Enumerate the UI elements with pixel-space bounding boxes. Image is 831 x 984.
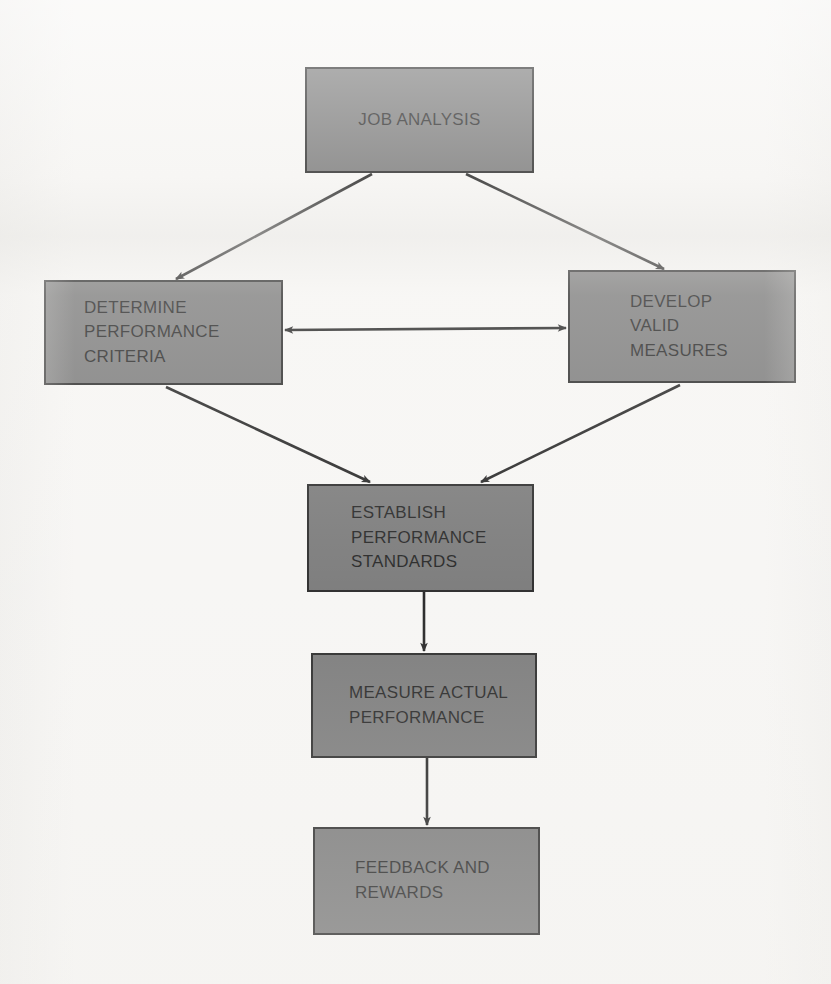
connector-determine-criteria-to-develop-measures <box>285 328 566 330</box>
connector-develop-measures-to-establish-standards <box>481 385 680 482</box>
node-measure-actual-performance-label: MEASURE ACTUAL PERFORMANCE <box>313 681 535 730</box>
node-determine-performance-criteria-label: DETERMINE PERFORMANCE CRITERIA <box>46 296 281 370</box>
node-establish-performance-standards[interactable]: ESTABLISH PERFORMANCE STANDARDS <box>307 484 534 592</box>
node-develop-valid-measures-label: DEVELOP VALID MEASURES <box>570 290 794 364</box>
node-job-analysis-label: JOB ANALYSIS <box>307 108 532 133</box>
node-job-analysis[interactable]: JOB ANALYSIS <box>305 67 534 173</box>
flowchart-diagram: JOB ANALYSIS DETERMINE PERFORMANCE CRITE… <box>0 0 831 984</box>
node-feedback-and-rewards-label: FEEDBACK AND REWARDS <box>315 856 538 905</box>
node-feedback-and-rewards[interactable]: FEEDBACK AND REWARDS <box>313 827 540 935</box>
node-determine-performance-criteria[interactable]: DETERMINE PERFORMANCE CRITERIA <box>44 280 283 385</box>
node-measure-actual-performance[interactable]: MEASURE ACTUAL PERFORMANCE <box>311 653 537 758</box>
connector-determine-criteria-to-establish-standards <box>166 387 370 482</box>
connector-job-analysis-to-determine-criteria <box>176 174 372 279</box>
connector-job-analysis-to-develop-measures <box>466 174 664 269</box>
node-establish-performance-standards-label: ESTABLISH PERFORMANCE STANDARDS <box>309 501 532 575</box>
node-develop-valid-measures[interactable]: DEVELOP VALID MEASURES <box>568 270 796 383</box>
